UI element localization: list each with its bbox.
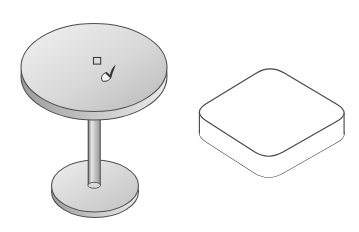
table-stem-cap	[88, 182, 101, 188]
tabletop-surface	[21, 24, 167, 112]
scene-svg	[0, 0, 359, 232]
viewport-canvas	[0, 0, 359, 232]
